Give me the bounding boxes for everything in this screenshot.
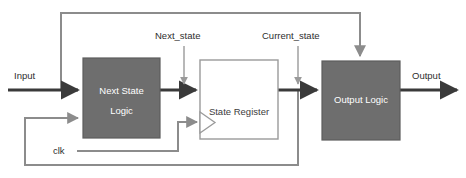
state-register-label: State Register xyxy=(209,106,269,117)
next-state-logic-body xyxy=(83,58,160,138)
next-state-logic-label-line1: Next State xyxy=(99,85,143,96)
label-current-state: Current_state xyxy=(262,30,320,41)
label-clk: clk xyxy=(53,145,65,156)
label-output: Output xyxy=(412,70,441,81)
label-input: Input xyxy=(14,70,35,81)
output-logic-label: Output Logic xyxy=(334,94,388,105)
state-register-body xyxy=(200,60,278,139)
diagram-canvas: State Register Next State Logic Output L… xyxy=(0,0,466,178)
fsm-block-diagram: State Register Next State Logic Output L… xyxy=(0,0,466,178)
next-state-logic-label-line2: Logic xyxy=(110,105,133,116)
label-next-state: Next_state xyxy=(155,30,200,41)
block-next-state-logic[interactable]: Next State Logic xyxy=(83,58,160,138)
block-state-register[interactable]: State Register xyxy=(200,60,278,139)
block-output-logic[interactable]: Output Logic xyxy=(322,61,400,140)
